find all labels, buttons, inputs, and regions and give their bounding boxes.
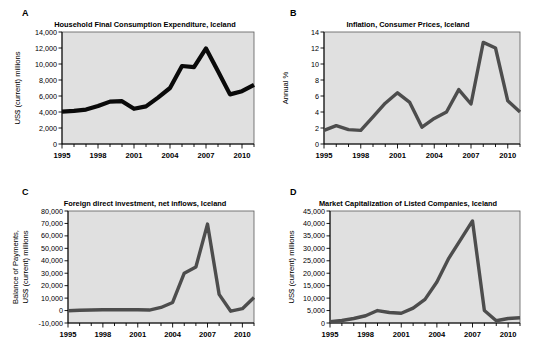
y-tick-label: 0 — [53, 140, 57, 149]
x-tick-label: 2007 — [463, 151, 480, 160]
x-tick-label: 1995 — [60, 330, 78, 339]
y-tick-label: 35,000 — [303, 231, 325, 240]
panel-title-d: Market Capitalization of Listed Companie… — [268, 199, 532, 208]
y-tick-label: 5,000 — [307, 306, 325, 315]
y-tick-label: 8 — [315, 76, 319, 85]
y-tick-label: 30,000 — [41, 269, 63, 278]
y-tick-label: 40,000 — [303, 219, 325, 228]
y-tick-label: 60,000 — [41, 231, 63, 240]
y-tick-label: 0 — [315, 140, 319, 149]
panel-letter-c: C — [22, 187, 29, 197]
y-tick-label: 15,000 — [303, 281, 325, 290]
y-tick-label: 0 — [321, 319, 325, 328]
x-tick-label: 2007 — [199, 330, 216, 339]
y-tick-label: 6 — [315, 92, 319, 101]
x-tick-label: 2001 — [129, 330, 147, 339]
y-tick-label: 40,000 — [41, 256, 63, 265]
y-axis-title: US$ (current) millions — [287, 230, 296, 303]
x-tick-label: 2001 — [389, 151, 407, 160]
x-tick-label: 2010 — [499, 151, 516, 160]
y-tick-label: 20,000 — [41, 281, 63, 290]
panel-letter-d: D — [290, 187, 297, 197]
y-tick-label: 25,000 — [303, 256, 325, 265]
y-tick-label: 12,000 — [35, 44, 57, 53]
x-tick-label: 2010 — [500, 330, 517, 339]
x-tick-label: 2004 — [162, 151, 180, 160]
y-tick-label: 0 — [59, 306, 63, 315]
panel-c: C Foreign direct investment, net inflows… — [0, 179, 268, 358]
x-tick-label: 2007 — [198, 151, 215, 160]
x-tick-label: 2001 — [126, 151, 144, 160]
y-tick-label: 2,000 — [39, 124, 57, 133]
y-axis-title: Balance of Payments, — [11, 230, 20, 304]
y-tick-label: -10,000 — [39, 319, 63, 328]
y-tick-label: 2 — [315, 124, 319, 133]
panel-title-c: Foreign direct investment, net inflows, … — [0, 199, 264, 208]
y-tick-label: 20,000 — [303, 269, 325, 278]
panel-letter-a: A — [22, 8, 29, 18]
panel-title-a: Household Final Consumption Expenditure,… — [0, 20, 264, 29]
y-tick-label: 10,000 — [35, 60, 57, 69]
x-tick-label: 1998 — [357, 330, 374, 339]
y-tick-label: 12 — [311, 44, 319, 53]
x-tick-label: 1995 — [316, 151, 334, 160]
panel-d: D Market Capitalization of Listed Compan… — [268, 179, 536, 358]
y-tick-label: 6,000 — [39, 92, 57, 101]
x-tick-label: 1995 — [322, 330, 340, 339]
chart-a-plot: 02,0004,0006,0008,00010,00012,00014,0001… — [13, 28, 254, 160]
panel-b: B Inflation, Consumer Prices, Iceland 02… — [268, 0, 536, 179]
y-tick-label: 10,000 — [41, 294, 63, 303]
panel-title-b: Inflation, Consumer Prices, Iceland — [268, 20, 532, 29]
y-tick-label: 50,000 — [41, 244, 63, 253]
panel-letter-b: B — [290, 8, 297, 18]
x-tick-label: 2007 — [464, 330, 481, 339]
y-axis-title: US$ (current) millions — [13, 51, 22, 124]
y-tick-label: 10 — [311, 60, 319, 69]
y-tick-label: 30,000 — [303, 244, 325, 253]
panel-a: A Household Final Consumption Expenditur… — [0, 0, 268, 179]
x-tick-label: 2010 — [234, 330, 251, 339]
y-tick-label: 4 — [315, 108, 319, 117]
y-axis-title: Annual % — [281, 72, 290, 105]
y-tick-label: 4,000 — [39, 108, 57, 117]
figure-root: A Household Final Consumption Expenditur… — [0, 0, 536, 358]
x-tick-label: 2001 — [393, 330, 411, 339]
y-axis-title: US$ (current) millions — [21, 230, 30, 303]
chart-c-plot: -10,000010,00020,00030,00040,00050,00060… — [11, 207, 254, 339]
chart-d-plot: 05,00010,00015,00020,00025,00030,00035,0… — [287, 207, 520, 339]
x-tick-label: 1998 — [90, 151, 107, 160]
y-tick-label: 10,000 — [303, 294, 325, 303]
x-tick-label: 1998 — [94, 330, 111, 339]
x-tick-label: 2004 — [428, 330, 446, 339]
x-tick-label: 2004 — [164, 330, 182, 339]
y-tick-label: 8,000 — [39, 76, 57, 85]
chart-b-plot: 02468101214199519982001200420072010Annua… — [281, 28, 520, 160]
plot-area — [330, 211, 520, 323]
x-tick-label: 2010 — [234, 151, 251, 160]
y-tick-label: 70,000 — [41, 219, 63, 228]
x-tick-label: 1995 — [54, 151, 72, 160]
x-tick-label: 1998 — [352, 151, 369, 160]
x-tick-label: 2004 — [426, 151, 444, 160]
